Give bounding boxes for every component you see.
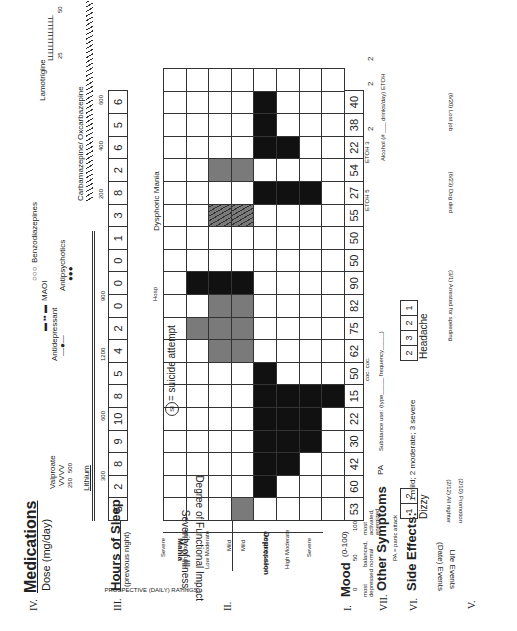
dizzy-ratings: 1 2 (400, 488, 418, 519)
dizzy-label: Dizzy (418, 495, 429, 519)
sleep-subtitle: (previous night) (122, 532, 131, 587)
substance-use-label: Substance use: (type_____ frequency_____… (378, 331, 384, 451)
mania-level: High Moderate (182, 530, 188, 569)
medications-subtitle: Dose (mg/day) (40, 519, 52, 591)
valproate-label: Valproate (48, 455, 57, 489)
section-numeral: II. (222, 602, 233, 611)
headache-value: 3 (401, 330, 417, 345)
suicide-attempt-legend: = suicide attempt (166, 325, 177, 401)
maoi-marker: ▬ ▪▪ ▬ (40, 305, 49, 331)
mood-chart-form: IV. Medications Dose (mg/day) Valproate … (0, 0, 517, 631)
mood-cell: 82 (345, 294, 363, 317)
mood-cell: 50 (345, 249, 363, 272)
lithium-label: Lithium (82, 465, 91, 491)
suicide-attempt-symbol: SI (165, 402, 179, 416)
etoh-annotation: ETOH 3 (364, 141, 370, 163)
section-numeral: III. (112, 599, 123, 612)
sleep-cell: 2 (109, 159, 127, 182)
mood-cell: 55 (345, 204, 363, 227)
mania-level: Low Moderate (204, 531, 210, 569)
side-effects-title: Side Effects: (404, 512, 419, 591)
mood-cell: 30 (345, 430, 363, 453)
sleep-cell: 5 (109, 113, 127, 136)
life-event: (2/10) Promotion (458, 478, 464, 523)
side-effects-scale: 1 mild; 2 moderate; 3 severe (408, 400, 417, 501)
valproate-dose: 250 (67, 478, 73, 488)
mood-cell: 50 (345, 362, 363, 385)
alcohol-count: 2 (366, 127, 375, 131)
section-numeral: VII. (378, 595, 389, 611)
cocaine-annotation: coc. coc. (364, 357, 370, 381)
other-symptoms-title: Other Symptoms (374, 486, 389, 591)
life-events-subtitle: (Date) Events (436, 542, 445, 591)
depression-level: High Moderate (284, 530, 290, 569)
mood-range: (0-100) (340, 531, 349, 557)
depression-level: Severe (306, 538, 312, 557)
sleep-cell: 4 (109, 339, 127, 362)
section-numeral: VI. (408, 598, 419, 611)
grid-row-mania-high-moderate (187, 68, 210, 520)
grid-row-depression-low-moderate (277, 68, 300, 520)
carbamazepine-dose: 200 (98, 189, 104, 199)
grid-row-mania-mild (232, 68, 255, 520)
lithium-dose: 1200 (100, 348, 106, 361)
life-event: (3/1) Arrested for speeding (448, 270, 454, 341)
sleep-cell: 5 (109, 497, 127, 520)
dizzy-value: 1 (401, 503, 417, 518)
mood-cell: 50 (345, 226, 363, 249)
carbamazepine-label: Carbamazepine/ Oxcarbazepine (76, 86, 85, 201)
mood-title: Mood (338, 562, 353, 597)
headache-value: 2 (401, 345, 417, 360)
headache-value: 2 (401, 315, 417, 330)
sleep-cell: 0 (109, 249, 127, 272)
mood-cell: 22 (345, 136, 363, 159)
medications-title: Medications (22, 501, 40, 593)
dysphoric-mania-label: Dysphoric Mania (152, 171, 161, 231)
grid-row-depression-severe (322, 68, 345, 520)
sleep-cell: 8 (109, 452, 127, 475)
mood-cell: 15 (345, 384, 363, 407)
headache-ratings: 2 3 2 1 (400, 300, 418, 361)
mood-low-value: 0 (352, 588, 358, 591)
ratings-header: PROSPECTIVE (DAILY) RATINGS (104, 587, 197, 593)
life-event: (2/12) All nighter (446, 479, 452, 523)
mood-cell: 75 (345, 317, 363, 340)
lamotrigine-dose: 25 (57, 52, 63, 59)
lamotrigine-label: Lamotrigine (38, 59, 47, 101)
sleep-cell: 10 (109, 407, 127, 430)
mood-rating-row: 53 60 42 30 22 15 50 62 75 82 90 50 50 5… (344, 90, 364, 521)
grid-row-mania-low-moderate (209, 68, 232, 520)
mood-mid-label: balanced, normal (362, 531, 374, 567)
depression-level: Mild (240, 540, 246, 551)
mood-cell: 54 (345, 159, 363, 182)
mood-cell: 27 (345, 181, 363, 204)
benzodiazepines-marker: ○○○ (30, 267, 39, 282)
dizzy-value: 2 (401, 489, 417, 503)
mood-cell: 62 (345, 339, 363, 362)
benzodiazepines-label: Benzodiazepines (30, 202, 39, 263)
mood-cell: 38 (345, 113, 363, 136)
sleep-cell: 9 (109, 430, 127, 453)
antipsychotics-marker: ●●● (66, 267, 75, 282)
section-numeral: V. (466, 601, 477, 609)
etoh-annotation: ETOH 5 (364, 189, 370, 211)
grid-row-depression-high-moderate (300, 68, 323, 520)
section-numeral: IV. (28, 599, 39, 611)
valproate-dose: 500 (67, 463, 73, 473)
mania-level: Severe (160, 538, 166, 557)
sleep-cell: 3 (109, 204, 127, 227)
sleep-cell: 8 (109, 384, 127, 407)
headache-label: Headache (418, 313, 429, 359)
depression-level: Low Moderate (262, 531, 268, 569)
daily-severity-grid (163, 68, 345, 521)
carbamazepine-hatch-bar (86, 1, 93, 201)
lithium-dose: 600 (100, 411, 106, 421)
sleep-hours-row: 5 2 8 9 10 8 5 4 2 0 0 0 1 3 8 2 6 5 6 (108, 90, 128, 521)
sleep-cell: 6 (109, 91, 127, 114)
maoi-label: MAOI (40, 281, 49, 301)
sleep-cell: 2 (109, 475, 127, 498)
mood-cell: 42 (345, 452, 363, 475)
sleep-cell: 1 (109, 226, 127, 249)
lithium-dose: 900 (100, 291, 106, 301)
headache-value: 1 (401, 301, 417, 315)
